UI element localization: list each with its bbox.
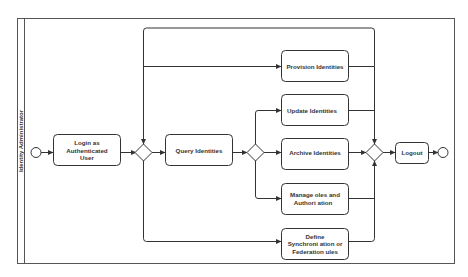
task-define-line3: Federation ules xyxy=(292,248,338,255)
task-define-line2: Synchroni ation or xyxy=(288,240,343,247)
task-define-synchronization[interactable]: Define Synchroni ation or Federation ule… xyxy=(282,229,349,260)
task-login-line1: Login as xyxy=(74,139,100,146)
task-logout-label: Logout xyxy=(402,149,423,156)
task-manage-line1: Manage oles and xyxy=(290,191,340,198)
task-login-line2: Authenticated xyxy=(66,147,107,154)
task-archive-label: Archive Identities xyxy=(289,149,341,156)
task-logout[interactable]: Logout xyxy=(396,143,429,164)
task-login-line3: User xyxy=(80,154,94,161)
task-define-line1: Define xyxy=(306,233,325,240)
bpmn-diagram: Identity Administrator xyxy=(0,0,468,277)
task-query-label: Query Identities xyxy=(176,147,223,154)
task-update-label: Update Identities xyxy=(287,107,337,114)
lane-label: Identity Administrator xyxy=(18,109,24,172)
task-update-identities[interactable]: Update Identities xyxy=(282,95,349,126)
task-manage-roles[interactable]: Manage oles and Authori ation xyxy=(282,184,349,215)
start-event[interactable] xyxy=(31,148,41,158)
task-provision-identities[interactable]: Provision Identities xyxy=(282,51,349,82)
task-query-identities[interactable]: Query Identities xyxy=(166,135,233,166)
task-provision-label: Provision Identities xyxy=(286,63,344,70)
task-archive-identities[interactable]: Archive Identities xyxy=(282,139,349,170)
task-login[interactable]: Login as Authenticated User xyxy=(54,135,121,166)
end-event[interactable] xyxy=(438,148,448,158)
task-manage-line2: Authori ation xyxy=(294,199,333,206)
